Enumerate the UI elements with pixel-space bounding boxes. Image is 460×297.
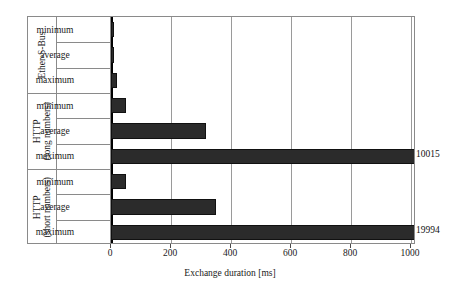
- x-tick-label-0: 0: [108, 248, 113, 258]
- bar: [111, 47, 114, 62]
- group-label-http-long-numbers: HTTP(long numbers): [28, 93, 57, 169]
- bar: [111, 123, 206, 138]
- bar: [111, 199, 216, 214]
- gridline-600: [291, 17, 292, 243]
- plot-area: [111, 17, 414, 243]
- bar: [111, 73, 117, 88]
- x-axis-title: Exchange duration [ms]: [0, 268, 460, 278]
- bar: [111, 174, 126, 189]
- bar: [111, 225, 414, 240]
- x-tick-label-1000: 1000: [401, 248, 420, 258]
- bar-value-label: 19994: [416, 225, 440, 235]
- gridline-1000: [411, 17, 412, 243]
- group-label-text: HTTP(short numbers): [32, 177, 53, 237]
- x-tick-label-400: 400: [223, 248, 237, 258]
- bar: [111, 98, 126, 113]
- x-tick-label-200: 200: [163, 248, 177, 258]
- group-label-line: (short numbers): [43, 177, 53, 237]
- x-tick-label-800: 800: [343, 248, 357, 258]
- gridline-800: [351, 17, 352, 243]
- group-label-line: HTTP: [32, 119, 42, 143]
- bar-value-label: 10015: [416, 149, 440, 159]
- x-tick-label-600: 600: [283, 248, 297, 258]
- group-label-line: Ether-S-Bus: [37, 32, 47, 79]
- group-label-http-short-numbers: HTTP(short numbers): [28, 169, 57, 245]
- chart-page: minimumaveragemaximumminimumaveragemaxim…: [0, 0, 460, 297]
- group-label-text: HTTP(long numbers): [32, 102, 53, 160]
- bar: [111, 22, 114, 37]
- bar: [111, 149, 414, 164]
- plot-frame: minimumaveragemaximumminimumaveragemaxim…: [27, 16, 415, 244]
- group-label-line: (long numbers): [43, 102, 53, 160]
- group-label-ether-s-bus: Ether-S-Bus: [28, 17, 57, 93]
- gridline-400: [231, 17, 232, 243]
- group-label-text: Ether-S-Bus: [37, 32, 47, 79]
- group-label-line: HTTP: [32, 195, 42, 219]
